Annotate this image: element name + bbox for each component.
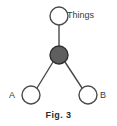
edge-center-to-b xyxy=(65,62,82,88)
node-things-circle xyxy=(50,7,68,25)
edge-center-to-a xyxy=(37,62,53,88)
node-b-circle xyxy=(79,86,97,104)
figure-container: Things A B Fig. 3 xyxy=(0,0,117,126)
node-label-b: B xyxy=(100,90,106,100)
node-a-circle xyxy=(22,86,40,104)
node-label-a: A xyxy=(9,90,15,100)
node-label-things: Things xyxy=(67,10,94,20)
node-link-diagram xyxy=(0,0,117,126)
node-center-circle xyxy=(50,46,68,64)
figure-caption: Fig. 3 xyxy=(0,110,117,120)
nodes-group xyxy=(22,7,97,104)
